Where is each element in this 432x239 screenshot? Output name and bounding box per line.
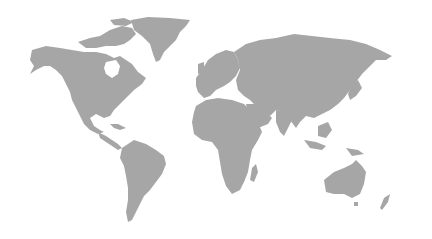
north-america — [30, 46, 146, 134]
southeast-asia-islands — [318, 122, 332, 138]
british-isles — [198, 62, 204, 74]
india — [276, 110, 292, 136]
world-map — [0, 0, 432, 239]
south-america — [120, 140, 166, 222]
greenland — [131, 17, 190, 62]
europe — [196, 50, 240, 98]
australia — [324, 160, 366, 198]
madagascar — [250, 164, 258, 182]
canadian-arctic-islands — [78, 26, 136, 48]
southeast-asia-islands — [346, 148, 364, 156]
caribbean — [110, 124, 126, 130]
new-zealand — [380, 194, 390, 210]
tasmania — [354, 202, 358, 206]
central-america — [98, 132, 122, 150]
canadian-arctic-islands — [110, 18, 134, 26]
southeast-asia-islands — [304, 140, 326, 150]
